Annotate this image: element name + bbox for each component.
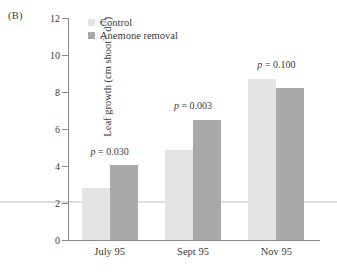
p-value-label: p = 0.100 [257,59,295,70]
p-value-label: p = 0.030 [91,146,129,157]
y-axis-tick-label: 10 [38,50,60,61]
legend-swatch-control [88,19,95,26]
x-axis-category-label: Nov 95 [261,246,292,257]
legend-item-label: Control [100,17,132,28]
bar-control [82,188,110,240]
y-axis-tick-label: 12 [38,13,60,24]
legend: ControlAnemone removal [88,16,178,42]
x-axis-category-label: Sept 95 [177,246,209,257]
y-axis-tick [62,240,69,241]
x-axis-line [68,240,320,241]
legend-item-label: Anemone removal [100,30,178,41]
bar-removal [276,88,304,240]
y-axis-tick-label: 8 [38,87,60,98]
figure-panel-b: (B) 024681012 Leaf growth (cm shoot-1 d-… [0,0,337,272]
plot-area: Leaf growth (cm shoot-1 d-1) [68,18,318,240]
bar-removal [193,120,221,240]
y-axis-tick-label: 2 [38,198,60,209]
bar-removal [110,165,138,240]
y-axis-tick-label: 0 [38,235,60,246]
y-axis-tick-label: 6 [38,124,60,135]
bar-control [248,79,276,240]
y-axis-tick-label: 4 [38,161,60,172]
p-value-label: p = 0.003 [174,100,212,111]
x-axis-category-label: July 95 [94,246,125,257]
legend-swatch-removal [88,32,95,39]
panel-label: (B) [8,10,23,21]
legend-item: Control [88,16,178,29]
legend-item: Anemone removal [88,29,178,42]
bar-control [165,150,193,240]
